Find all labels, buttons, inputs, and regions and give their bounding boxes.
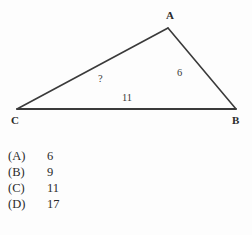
answer-choice-b-key: (B) (8, 164, 40, 180)
answer-choice-d[interactable]: (D) 17 (0, 196, 252, 212)
triangle-figure-panel: A B C ? 6 11 (0, 0, 252, 140)
side-label-AB: 6 (177, 67, 182, 78)
answer-choice-a-value: 6 (40, 148, 53, 164)
triangle-edge-CA (17, 28, 168, 109)
vertex-label-B: B (232, 114, 240, 126)
side-label-unknown: ? (98, 73, 103, 84)
answer-choice-b-value: 9 (40, 164, 53, 180)
answer-choice-c[interactable]: (C) 11 (0, 180, 252, 196)
answer-choices-list: (A) 6 (B) 9 (C) 11 (D) 17 (0, 148, 252, 212)
answer-choice-a-key: (A) (8, 148, 40, 164)
answer-choice-d-key: (D) (8, 196, 40, 212)
answer-choice-d-value: 17 (40, 196, 60, 212)
vertex-label-A: A (166, 9, 174, 21)
triangle-diagram: A B C ? 6 11 (0, 0, 252, 140)
answer-choice-c-key: (C) (8, 180, 40, 196)
answer-choice-a[interactable]: (A) 6 (0, 148, 252, 164)
answer-choice-c-value: 11 (40, 180, 59, 196)
vertex-label-C: C (11, 114, 19, 126)
side-label-CB: 11 (122, 92, 132, 103)
answer-choice-b[interactable]: (B) 9 (0, 164, 252, 180)
